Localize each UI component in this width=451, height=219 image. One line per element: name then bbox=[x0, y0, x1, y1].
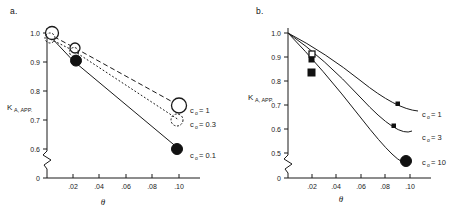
legend-label-value: = 0.1 bbox=[199, 151, 216, 160]
data-point bbox=[401, 156, 412, 167]
panel-b-legend-c0-1: c o = 1 bbox=[422, 110, 442, 120]
panel-b-series-c0-10-line bbox=[288, 33, 407, 163]
panel-a-xtick-08: .08 bbox=[147, 183, 157, 190]
panel-b-axis-break bbox=[284, 155, 292, 173]
panel-a: a. 1.0 0.9 0.8 0.7 0. bbox=[0, 0, 226, 219]
panel-b-y-axis-title: K bbox=[248, 93, 254, 102]
panel-b-series-c0-3-line bbox=[288, 33, 412, 132]
panel-a-y-ticklabels: 1.0 0.9 0.8 0.7 0.6 0 bbox=[30, 30, 40, 182]
panel-b-xtick-06: .06 bbox=[356, 183, 366, 190]
panel-a-x-ticklabels: .02 .04 .06 .08 .10 bbox=[68, 183, 184, 190]
panel-a-x-axis-title: θ bbox=[101, 197, 106, 207]
data-point bbox=[308, 69, 315, 76]
panel-a-y-axis-title: K bbox=[7, 103, 13, 112]
panel-a-series-c0-01-line bbox=[47, 33, 179, 149]
panel-b-ytick-0: 0 bbox=[277, 175, 281, 182]
legend-label-main: c bbox=[190, 106, 194, 115]
panel-b-ytick-1-0: 1.0 bbox=[271, 30, 281, 37]
panel-a-series-c0-1-markers bbox=[46, 27, 187, 114]
legend-label-value: = 1 bbox=[199, 106, 210, 115]
panel-a-plot: 1.0 0.9 0.8 0.7 0.6 0 .02 .04 .06 .08 . bbox=[0, 0, 226, 219]
panel-b-xtick-04: .04 bbox=[331, 183, 341, 190]
data-point bbox=[396, 102, 400, 106]
panel-a-ytick-0-9: 0.9 bbox=[30, 59, 40, 66]
legend-label-main: c bbox=[190, 151, 194, 160]
legend-label-sub: o bbox=[195, 110, 198, 116]
panel-b-ytick-0-8: 0.8 bbox=[271, 78, 281, 85]
legend-label-value: = 10 bbox=[431, 158, 446, 167]
legend-label-main: c bbox=[422, 110, 426, 119]
legend-label-main: c bbox=[190, 120, 194, 129]
panel-a-xtick-10: .10 bbox=[174, 183, 184, 190]
panel-b-x-ticks bbox=[312, 174, 410, 178]
panel-a-x-ticks bbox=[73, 174, 179, 178]
panel-b-y-ticklabels: 1.0 0.9 0.8 0.7 0.6 0.5 0 bbox=[271, 30, 281, 182]
data-point bbox=[171, 114, 183, 126]
legend-label-value: = 3 bbox=[431, 133, 442, 142]
panel-a-series-c0-1-line bbox=[47, 33, 179, 106]
legend-label-sub: o bbox=[427, 114, 430, 120]
legend-label-sub: o bbox=[427, 137, 430, 143]
data-point bbox=[172, 98, 187, 113]
panel-a-legend-c0-03: c o = 0.3 bbox=[190, 120, 216, 130]
legend-label-main: c bbox=[422, 158, 426, 167]
legend-label-sub: o bbox=[195, 155, 198, 161]
panel-b: b. 1.0 0.9 0.8 0.7 bbox=[226, 0, 451, 219]
data-point bbox=[309, 57, 314, 62]
panel-b-series-c0-1-markers bbox=[309, 51, 400, 106]
data-point bbox=[392, 124, 396, 128]
legend-label-value: = 0.3 bbox=[199, 120, 216, 129]
panel-b-x-ticklabels: .02 .04 .06 .08 .10 bbox=[307, 183, 415, 190]
panel-a-xtick-04: .04 bbox=[94, 183, 104, 190]
legend-label-sub: o bbox=[427, 162, 430, 168]
panel-b-series-c0-10-markers bbox=[308, 69, 412, 167]
panel-a-series-c0-03-line bbox=[47, 37, 179, 120]
panel-b-x-axis-title: θ bbox=[339, 194, 344, 204]
panel-a-xtick-02: .02 bbox=[68, 183, 78, 190]
panel-a-legend-c0-01: c o = 0.1 bbox=[190, 151, 216, 161]
panel-a-ytick-0-7: 0.7 bbox=[30, 117, 40, 124]
data-point bbox=[46, 27, 59, 40]
panel-a-axis-break bbox=[43, 151, 51, 169]
panel-b-ytick-0-5: 0.5 bbox=[271, 150, 281, 157]
panel-b-xtick-10: .10 bbox=[405, 183, 415, 190]
legend-label-sub: o bbox=[195, 124, 198, 130]
panel-a-ytick-0-6: 0.6 bbox=[30, 146, 40, 153]
panel-a-ytick-0-8: 0.8 bbox=[30, 88, 40, 95]
panel-a-ytick-0: 0 bbox=[36, 175, 40, 182]
panel-b-legend-c0-10: c o = 10 bbox=[422, 158, 446, 168]
panel-a-xtick-06: .06 bbox=[121, 183, 131, 190]
panel-b-ytick-0-9: 0.9 bbox=[271, 54, 281, 61]
panel-a-ytick-1-0: 1.0 bbox=[30, 30, 40, 37]
panel-b-plot: 1.0 0.9 0.8 0.7 0.6 0.5 0 .02 .04 .06 . bbox=[226, 0, 451, 219]
panel-b-ytick-0-6: 0.6 bbox=[271, 126, 281, 133]
figure-container: a. 1.0 0.9 0.8 0.7 0. bbox=[0, 0, 451, 219]
panel-b-legend-c0-3: c o = 3 bbox=[422, 133, 442, 143]
data-point bbox=[309, 51, 315, 57]
panel-a-legend-c0-1: c o = 1 bbox=[190, 106, 210, 116]
data-point bbox=[71, 55, 82, 66]
panel-b-y-axis-title-sub: A, APP. bbox=[255, 97, 274, 103]
panel-b-xtick-08: .08 bbox=[380, 183, 390, 190]
panel-a-y-axis-title-sub: A, APP. bbox=[14, 107, 33, 113]
data-point bbox=[172, 144, 183, 155]
panel-b-xtick-02: .02 bbox=[307, 183, 317, 190]
legend-label-value: = 1 bbox=[431, 110, 442, 119]
legend-label-main: c bbox=[422, 133, 426, 142]
panel-b-series-c0-3-markers bbox=[309, 57, 396, 128]
panel-a-series-c0-03-markers bbox=[45, 33, 183, 126]
